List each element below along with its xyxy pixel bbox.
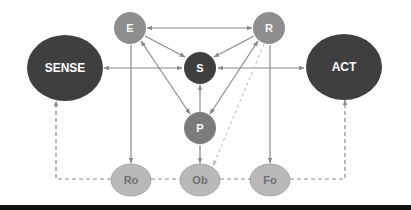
node-ob: Ob (180, 164, 220, 196)
node-r: R (253, 12, 285, 44)
node-fo: Fo (250, 164, 290, 196)
node-sense: SENSE (27, 35, 103, 101)
node-act-label: ACT (332, 60, 357, 74)
edge-e-p (141, 41, 190, 114)
edge-r-ob-dotted (213, 44, 264, 166)
architecture-diagram: SENSE ACT E R S P Ro Ob Fo (0, 0, 411, 210)
node-e-label: E (126, 22, 133, 34)
edge-fo-act-dashed (290, 100, 345, 179)
edge-e-s (145, 36, 185, 57)
bottom-border-bar (0, 205, 411, 210)
edge-ro-sense-dashed (56, 101, 111, 179)
node-ob-label: Ob (192, 174, 208, 186)
edge-r-p (210, 41, 258, 114)
node-r-label: R (265, 22, 273, 34)
edges (56, 28, 345, 179)
node-p-label: P (196, 122, 203, 134)
node-e: E (114, 12, 146, 44)
node-s: S (184, 52, 216, 84)
node-p: P (184, 112, 216, 144)
node-ro: Ro (111, 164, 151, 196)
node-act: ACT (306, 34, 382, 100)
edge-r-s (214, 36, 254, 57)
node-sense-label: SENSE (45, 61, 86, 75)
node-fo-label: Fo (263, 174, 277, 186)
node-ro-label: Ro (124, 174, 139, 186)
node-s-label: S (196, 62, 203, 74)
